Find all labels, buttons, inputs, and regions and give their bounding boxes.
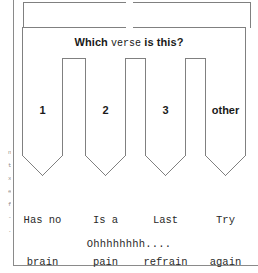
outcome-1-line2: brain bbox=[7, 255, 78, 269]
outcome-1: Has no brain bbox=[7, 185, 78, 273]
branch-label-3: 3 bbox=[145, 104, 186, 116]
figure-canvas: n t x e f - . Which verse is this? 1 2 3… bbox=[0, 0, 258, 273]
outcome-other: Try again bbox=[190, 185, 258, 273]
question-prefix: Which bbox=[74, 36, 111, 48]
question-emphasis: verse bbox=[111, 38, 141, 49]
question-heading: Which verse is this? bbox=[0, 36, 258, 49]
branch-arrow-other bbox=[206, 83, 246, 176]
inbound-bracket-left bbox=[24, 3, 126, 28]
branch-arrow-2 bbox=[86, 59, 146, 176]
branch-label-other: other bbox=[205, 104, 246, 116]
outcome-1-line1: Has no bbox=[7, 213, 78, 227]
branch-label-2: 2 bbox=[85, 104, 126, 116]
outcome-other-line2: again bbox=[190, 255, 258, 269]
inbound-bracket-right bbox=[133, 3, 251, 28]
question-suffix: is this? bbox=[141, 36, 183, 48]
branch-arrow-1 bbox=[23, 59, 86, 176]
footer-note: Ohhhhhhhh.... bbox=[0, 238, 258, 250]
branch-arrow-3 bbox=[146, 59, 206, 176]
branch-label-1: 1 bbox=[22, 104, 63, 116]
outcome-other-line1: Try bbox=[190, 213, 258, 227]
